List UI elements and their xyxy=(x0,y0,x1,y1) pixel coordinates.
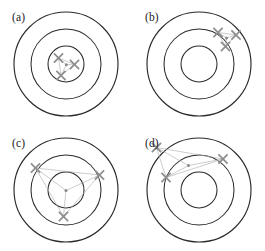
target-ring-3 xyxy=(181,46,217,82)
centroid-dot xyxy=(225,37,228,40)
shot-mark-3 xyxy=(161,173,170,182)
target-ring-1 xyxy=(147,138,251,242)
target-ring-2 xyxy=(164,155,234,225)
centroid-spoke-2 xyxy=(66,175,100,191)
panel-label-a: (a) xyxy=(12,12,25,24)
target-panel-c: (c) xyxy=(0,126,132,251)
shot-spread-polygon xyxy=(157,148,224,178)
target-figure: (a) (b) (c) (d) xyxy=(0,0,265,251)
panel-label-c: (c) xyxy=(12,138,25,150)
target-panel-d: (d) xyxy=(133,126,265,251)
panel-label-d: (d) xyxy=(145,138,159,150)
target-ring-1 xyxy=(147,12,251,116)
centroid-dot xyxy=(65,63,68,66)
shot-mark-2 xyxy=(231,30,240,39)
target-ring-2 xyxy=(164,29,234,99)
shot-mark-3 xyxy=(56,71,65,80)
panel-label-b: (b) xyxy=(145,12,159,24)
target-panel-b: (b) xyxy=(133,0,265,125)
target-ring-3 xyxy=(181,172,217,208)
shot-mark-2 xyxy=(218,154,227,163)
centroid-dot xyxy=(187,164,190,167)
centroid-dot xyxy=(65,189,68,192)
shot-mark-1 xyxy=(54,53,63,62)
centroid-spoke-3 xyxy=(64,191,67,217)
target-panel-a: (a) xyxy=(0,0,132,125)
